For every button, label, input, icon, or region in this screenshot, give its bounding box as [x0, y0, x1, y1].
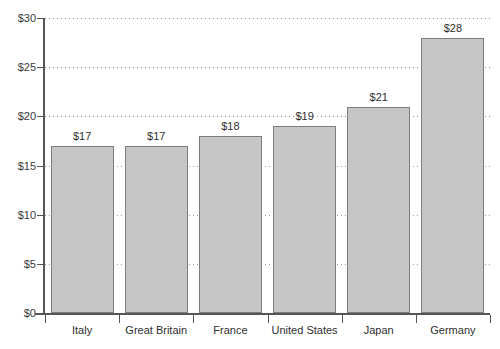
y-axis-tick-label: $30 [0, 12, 36, 24]
gridline-30 [45, 18, 490, 19]
x-axis-line [35, 313, 490, 315]
bar [51, 146, 114, 313]
x-axis-tick-mark [45, 315, 46, 323]
y-axis-tick-label: $10 [0, 209, 36, 221]
bar [199, 136, 262, 313]
x-axis-category-label: Japan [342, 324, 416, 336]
bar [421, 38, 484, 313]
x-axis-tick-mark [119, 315, 120, 323]
bar-value-label: $19 [265, 110, 345, 122]
x-axis-tick-mark [193, 315, 194, 323]
y-axis-tick-label: $15 [0, 160, 36, 172]
bar [273, 126, 336, 313]
bar-value-label: $17 [116, 130, 196, 142]
bar-value-label: $21 [339, 91, 419, 103]
y-axis-line [43, 18, 45, 314]
x-axis-tick-mark [342, 315, 343, 323]
bar-value-label: $28 [413, 22, 493, 34]
y-axis-tick-label: $25 [0, 61, 36, 73]
y-axis-tick-label: $20 [0, 110, 36, 122]
x-axis-tick-mark [268, 315, 269, 323]
bar [347, 107, 410, 313]
bar-chart: $30$25$20$15$10$5$0$17Italy$17Great Brit… [0, 0, 500, 349]
bar-value-label: $17 [42, 130, 122, 142]
bar-value-label: $18 [190, 120, 270, 132]
x-axis-category-label: United States [268, 324, 342, 336]
x-axis-category-label: Italy [45, 324, 119, 336]
x-axis-tick-mark [416, 315, 417, 323]
x-axis-category-label: Germany [416, 324, 490, 336]
x-axis-category-label: Great Britain [119, 324, 193, 336]
x-axis-category-label: France [193, 324, 267, 336]
y-axis-tick-label: $5 [0, 258, 36, 270]
y-axis-tick-label: $0 [0, 307, 36, 319]
x-axis-tick-mark [490, 315, 491, 323]
bar [125, 146, 188, 313]
